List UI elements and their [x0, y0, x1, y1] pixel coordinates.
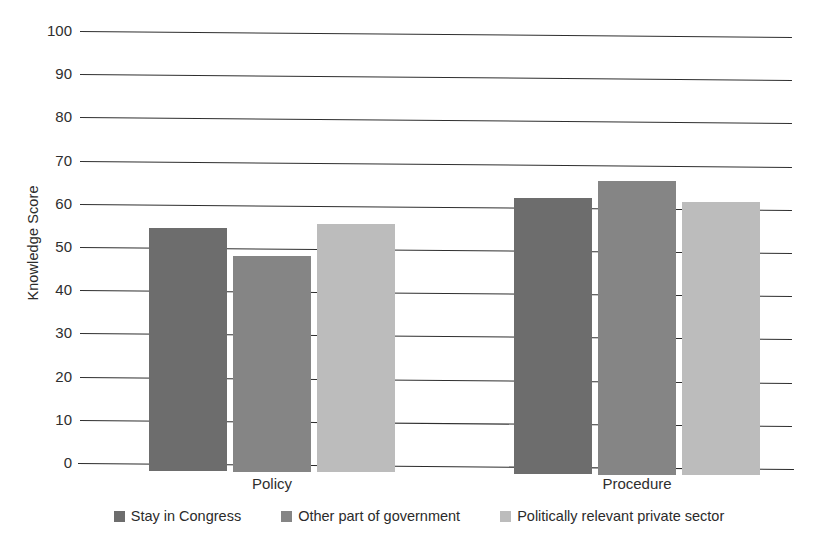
y-axis-tick-label: 20 — [26, 369, 72, 384]
legend-item[interactable]: Stay in Congress — [114, 508, 241, 524]
gridline — [80, 74, 792, 81]
chart-legend: Stay in CongressOther part of government… — [0, 508, 838, 524]
bar — [149, 228, 227, 471]
bar — [682, 202, 760, 475]
y-axis-tick-label: 90 — [26, 66, 72, 81]
bar — [233, 256, 311, 471]
y-axis-tick-label: 100 — [26, 23, 72, 38]
y-axis-tick-labels: 1009080706050403020100 — [22, 0, 72, 547]
bar — [317, 224, 395, 473]
legend-item[interactable]: Politically relevant private sector — [500, 508, 724, 524]
y-axis-tick-label: 50 — [26, 239, 72, 254]
legend-swatch-icon — [281, 511, 292, 522]
x-axis-category-label: Procedure — [557, 475, 717, 492]
bar-chart: Knowledge Score 1009080706050403020100 P… — [0, 0, 838, 547]
y-axis-tick-label: 10 — [26, 412, 72, 427]
y-axis-tick-label: 40 — [26, 282, 72, 297]
y-axis-tick-label: 70 — [26, 153, 72, 168]
legend-item[interactable]: Other part of government — [281, 508, 460, 524]
gridline — [80, 117, 792, 124]
x-axis-category-label: Policy — [192, 475, 352, 492]
bar — [598, 181, 676, 475]
legend-swatch-icon — [114, 511, 125, 522]
bar — [514, 198, 592, 474]
plot-area — [80, 25, 792, 470]
y-axis-tick-label: 0 — [26, 455, 72, 470]
legend-swatch-icon — [500, 511, 511, 522]
legend-item-label: Stay in Congress — [131, 508, 241, 524]
y-axis-tick-label: 30 — [26, 325, 72, 340]
legend-item-label: Other part of government — [298, 508, 460, 524]
legend-item-label: Politically relevant private sector — [517, 508, 724, 524]
y-axis-tick-label: 60 — [26, 196, 72, 211]
gridline — [80, 31, 792, 38]
y-axis-tick-label: 80 — [26, 109, 72, 124]
gridline — [80, 161, 792, 168]
